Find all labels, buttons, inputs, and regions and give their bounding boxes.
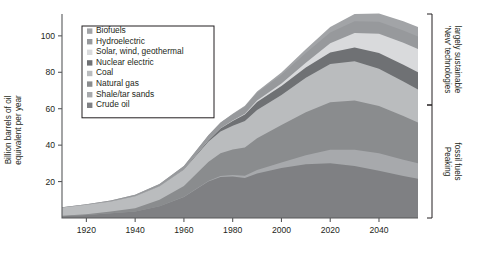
legend-swatch — [87, 60, 92, 65]
legend-swatch — [87, 71, 92, 76]
x-tick-label: 2040 — [369, 225, 388, 235]
legend-swatch — [87, 50, 92, 55]
y-axis-title-line2: equivalent per year — [14, 95, 23, 165]
x-tick-label: 2000 — [272, 225, 291, 235]
legend-label: Nuclear electric — [96, 57, 154, 67]
legend-label: Shale/tar sands — [96, 89, 154, 99]
legend-swatch — [87, 103, 92, 108]
legend-label: Biofuels — [96, 25, 126, 35]
legend-label: Hydroelectric — [96, 36, 145, 46]
legend-swatch — [87, 92, 92, 97]
y-tick-label: 60 — [45, 104, 55, 114]
y-tick-label: 100 — [41, 31, 56, 41]
y-tick-label: 20 — [45, 177, 55, 187]
legend-swatch — [87, 28, 92, 33]
legend-label: Coal — [96, 67, 113, 77]
y-axis-title: Billion barrels of oil equivalent per ye… — [4, 95, 23, 165]
x-tick-label: 1980 — [223, 225, 242, 235]
x-tick-label: 1920 — [77, 225, 96, 235]
legend-swatch — [87, 39, 92, 44]
y-tick-label: 40 — [45, 140, 55, 150]
energy-supply-stacked-area-chart: 20406080100 1920194019601980200020202040… — [0, 0, 486, 259]
legend-swatch — [87, 81, 92, 86]
bracket-label-line1: 'New' technologies — [443, 26, 452, 94]
x-tick-label: 1940 — [126, 225, 145, 235]
legend-label: Natural gas — [96, 78, 139, 88]
bracket-label-line1: Peaking — [443, 147, 452, 177]
bracket-label-line2: largely sustainable — [453, 26, 462, 94]
legend-label: Crude oil — [96, 99, 130, 109]
bracket-label-line2: fossil fuels — [453, 142, 462, 180]
chart-legend: BiofuelsHydroelectricSolar, wind, geothe… — [82, 25, 214, 118]
x-tick-label: 1960 — [174, 225, 193, 235]
y-tick-label: 80 — [45, 67, 55, 77]
legend-label: Solar, wind, geothermal — [96, 46, 184, 56]
y-axis-title-line1: Billion barrels of oil — [4, 95, 13, 164]
x-tick-label: 2020 — [321, 225, 340, 235]
